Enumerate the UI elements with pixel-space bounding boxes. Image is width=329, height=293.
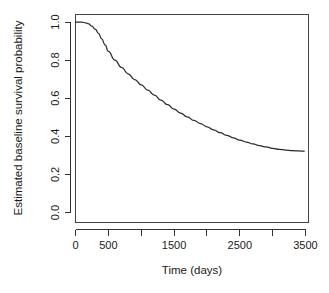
x-tick-label: 500: [99, 239, 117, 251]
plot-frame-box: [76, 15, 309, 223]
y-tick-label: 0.0: [49, 205, 61, 220]
x-axis-ticks: 0500150025003500: [72, 230, 317, 252]
y-tick-label: 1.0: [49, 14, 61, 29]
x-tick-label: 2500: [228, 239, 252, 251]
y-axis-title: Estimated baseline survival probability: [12, 20, 24, 215]
x-tick-label: 1500: [162, 239, 186, 251]
x-tick-label: 0: [72, 239, 78, 251]
survival-plot-figure: 0.00.20.40.60.81.0 0500150025003500 Time…: [0, 0, 329, 293]
y-tick-label: 0.2: [49, 167, 61, 182]
x-tick-label: 3500: [293, 239, 317, 251]
y-tick-label: 0.6: [49, 91, 61, 106]
survival-curve-line: [76, 22, 305, 151]
y-tick-label: 0.4: [49, 129, 61, 144]
x-axis-title: Time (days): [162, 264, 222, 276]
y-axis-ticks: 0.00.20.40.60.81.0: [49, 14, 71, 220]
y-tick-label: 0.8: [49, 52, 61, 67]
chart-canvas: 0.00.20.40.60.81.0 0500150025003500 Time…: [0, 0, 329, 293]
